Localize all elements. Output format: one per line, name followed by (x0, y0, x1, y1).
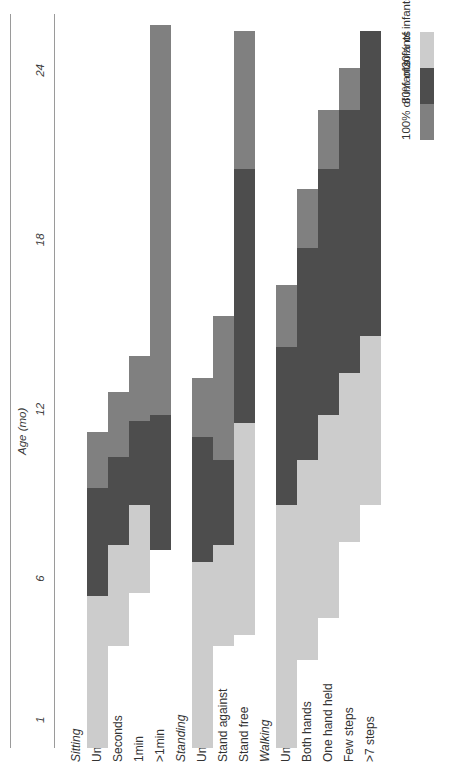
bar-segment (108, 545, 129, 647)
bar-segment (318, 110, 339, 169)
bar-row: Few steps (339, 0, 360, 762)
bar-segment (192, 378, 213, 437)
bar-row: Unable (87, 0, 108, 762)
row-label: Stand against (213, 689, 234, 762)
bar-row: Seconds (108, 0, 129, 762)
x-tick-18: 18 (34, 233, 46, 246)
bar-segment (297, 189, 318, 248)
bar-segment (339, 68, 360, 110)
row-label: 1min (129, 736, 150, 762)
milestone-chart: Age (mo) 16121824 SittingUnableSeconds1m… (0, 0, 456, 762)
bar-row: Unable (192, 0, 213, 762)
axis-line-bottom (54, 14, 55, 748)
bar-segment (276, 505, 297, 748)
bar-segment (150, 25, 171, 415)
legend-swatch (420, 104, 434, 140)
bar-segment (360, 336, 381, 505)
bar-segment (360, 31, 381, 336)
group-heading-sitting: Sitting (66, 0, 87, 762)
bar-segment (87, 596, 108, 748)
bar-segment (87, 432, 108, 488)
group-label: Sitting (66, 729, 87, 762)
x-tick-1: 1 (34, 717, 46, 723)
x-tick-12: 12 (34, 403, 46, 416)
row-label: >1min (150, 729, 171, 762)
bar-segment (297, 460, 318, 660)
bar-row: Stand against (213, 0, 234, 762)
bar-segment (129, 356, 150, 421)
bar-segment (108, 392, 129, 457)
bar-segment (297, 248, 318, 460)
bar-row: Unable (276, 0, 297, 762)
bar-segment (129, 421, 150, 506)
x-tick-24: 24 (34, 64, 46, 77)
bar-row: >7 steps (360, 0, 381, 762)
bar-segment (276, 285, 297, 347)
bar-segment (213, 545, 234, 647)
bar-segment (192, 437, 213, 561)
row-label: One hand held (318, 683, 339, 762)
bar-segment (150, 415, 171, 551)
bar-row: >1min (150, 0, 171, 762)
bar-segment (234, 169, 255, 423)
bar-segment (213, 316, 234, 460)
row-label: >7 steps (360, 716, 381, 762)
bar-segment (234, 423, 255, 635)
bar-row: Both hands (297, 0, 318, 762)
legend-swatch (420, 68, 434, 104)
bar-segment (108, 457, 129, 545)
bar-segment (339, 373, 360, 542)
axis-line-top (10, 14, 11, 748)
bar-segment (234, 31, 255, 169)
bar-segment (276, 347, 297, 505)
bar-row: Stand free (234, 0, 255, 762)
bar-row: One hand held (318, 0, 339, 762)
bar-segment (339, 110, 360, 373)
bar-segment (129, 505, 150, 593)
bar-segment (87, 488, 108, 595)
group-heading-walking: Walking (255, 0, 276, 762)
group-label: Standing (171, 715, 192, 762)
x-tick-6: 6 (34, 575, 46, 581)
group-label: Walking (255, 720, 276, 762)
bar-segment (318, 415, 339, 618)
group-heading-standing: Standing (171, 0, 192, 762)
x-axis-title: Age (mo) (16, 408, 28, 455)
bar-row: 1min (129, 0, 150, 762)
row-label: Stand free (234, 707, 255, 762)
bar-segment (213, 460, 234, 545)
legend-swatch (420, 32, 434, 68)
bar-segment (192, 562, 213, 748)
row-label: Seconds (108, 715, 129, 762)
row-label: Both hands (297, 701, 318, 762)
bar-segment (318, 169, 339, 415)
row-label: Few steps (339, 707, 360, 762)
legend-label: 20% of infants (400, 0, 412, 68)
